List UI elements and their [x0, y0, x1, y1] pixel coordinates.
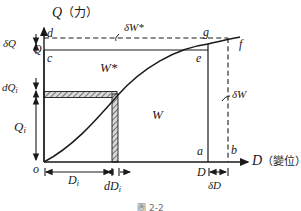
dqi-sub: i: [15, 86, 17, 95]
point-label-d: d: [47, 27, 53, 39]
point-label-g: g: [203, 26, 209, 38]
hatched-strips: [44, 92, 118, 163]
di-main: D: [68, 173, 77, 187]
point-label-c: c: [47, 52, 52, 64]
delta-w-star-annotation: δW*: [124, 22, 144, 33]
dqi-main: dQ: [2, 81, 15, 93]
region-label-complementary-work: W*: [100, 61, 117, 74]
y-axis-unit: （力）: [62, 6, 98, 20]
delta-d-label: δD: [208, 180, 221, 191]
di-sub: i: [77, 179, 79, 188]
figure-caption: 圖 2-2: [0, 201, 301, 211]
point-label-a: a: [197, 145, 203, 157]
y-axis-symbol: Q: [52, 5, 62, 20]
w-star-text: W*: [100, 60, 117, 75]
x-axis-unit: （變位）: [262, 155, 301, 168]
d-level-label: D: [197, 166, 206, 178]
qi-label: Qi: [14, 120, 26, 135]
delta-w-leader: [222, 96, 230, 101]
origin-label: o: [33, 163, 39, 175]
point-label-f: f: [239, 38, 242, 50]
qi-main: Q: [14, 119, 23, 134]
ddi-sub: i: [119, 185, 121, 194]
dqi-strip: [44, 92, 117, 98]
point-label-b: b: [231, 144, 237, 156]
x-axis-label: D（變位）: [252, 154, 301, 168]
leader-lines: [116, 34, 230, 101]
force-displacement-curve: [44, 44, 208, 162]
delta-w-annotation: δW: [232, 89, 246, 100]
solid-frame: [44, 44, 208, 162]
q-level-label: Q: [33, 43, 42, 55]
ddi-strip: [112, 94, 118, 162]
qi-sub: i: [23, 125, 25, 135]
ddi-label: dDi: [104, 180, 121, 194]
region-label-work: W: [152, 108, 163, 121]
delta-q-label: δQ: [3, 38, 16, 49]
force-displacement-diagram: [0, 0, 301, 211]
figure-container: Q（力） D（變位） o d c g f e a b W* W δW* δW δ…: [0, 0, 301, 211]
point-label-e: e: [196, 52, 201, 64]
di-label: Di: [68, 174, 79, 188]
ddi-main: dD: [104, 179, 119, 193]
y-axis-label: Q（力）: [52, 6, 98, 20]
dqi-label: dQi: [2, 82, 18, 94]
x-axis-symbol: D: [252, 153, 262, 168]
